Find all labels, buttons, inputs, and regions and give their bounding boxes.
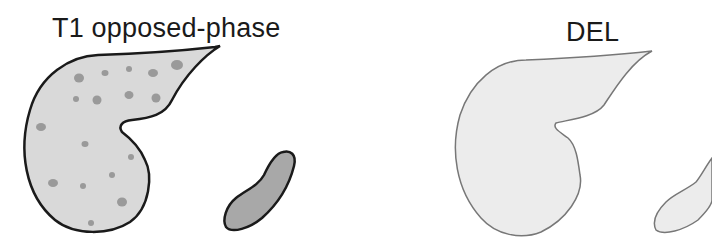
spleen-shape	[224, 152, 294, 231]
panel-t1-opposed-phase: T1 opposed-phase	[0, 0, 356, 246]
liver-spleen-diagram	[0, 0, 356, 246]
liver-shape	[455, 51, 652, 236]
spleen-shape	[654, 158, 712, 232]
liver-spleen-diagram	[356, 0, 712, 246]
panel-del: DEL	[356, 0, 712, 246]
